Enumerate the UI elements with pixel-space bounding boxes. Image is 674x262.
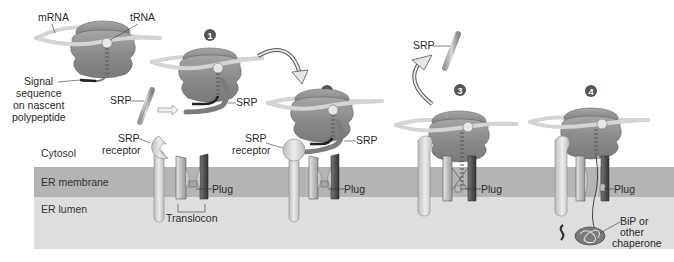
plug-step-4-label: Plug xyxy=(614,183,635,195)
srp-step-2-label: SRP xyxy=(356,134,378,146)
plug-step-2-label: Plug xyxy=(344,183,365,195)
srp-step-3-label: SRP xyxy=(413,39,435,51)
srp-released-icon xyxy=(445,34,458,68)
srp-receptor-label: SRP receptor xyxy=(102,132,141,156)
svg-text:polypeptide: polypeptide xyxy=(12,111,66,123)
srp-step-1-label: SRP xyxy=(236,96,258,108)
srp-free-icon xyxy=(140,90,152,122)
ribosome-initial xyxy=(36,21,160,81)
svg-text:Signal: Signal xyxy=(24,75,53,87)
arrow-srp-binding-icon xyxy=(158,105,178,115)
bip-chaperone-icon xyxy=(575,227,605,245)
step-1-badge: 1 xyxy=(204,29,216,41)
mrna-label: mRNA xyxy=(38,11,69,23)
srp-receptor-step-4-icon xyxy=(555,136,569,216)
er-lumen-label: ER lumen xyxy=(41,203,87,215)
cytosol-label: Cytosol xyxy=(41,147,76,159)
svg-text:SRP: SRP xyxy=(245,132,267,144)
translocon-label: Translocon xyxy=(166,212,218,224)
svg-text:3: 3 xyxy=(457,86,462,96)
srp-receptor-step-3-icon xyxy=(418,136,432,216)
er-membrane-label: ER membrane xyxy=(41,176,109,188)
ribosome-step-4 xyxy=(530,108,648,159)
srp-free-label: SRP xyxy=(110,94,132,106)
svg-text:1: 1 xyxy=(207,31,212,41)
step-3-badge: 3 xyxy=(454,84,466,96)
arrow-srp-release-icon xyxy=(412,55,432,104)
er-targeting-diagram: Cytosol ER membrane ER lumen mRNA tRNA S… xyxy=(0,0,674,262)
plug-icon xyxy=(189,181,197,187)
trna-label: tRNA xyxy=(130,11,155,23)
arrow-step-1-to-2-icon xyxy=(258,50,308,84)
svg-text:sequence: sequence xyxy=(16,87,62,99)
svg-text:SRP: SRP xyxy=(118,132,140,144)
svg-text:on nascent: on nascent xyxy=(13,99,64,111)
svg-text:receptor: receptor xyxy=(232,144,271,156)
svg-text:chaperone: chaperone xyxy=(612,237,662,249)
plug-step-3-label: Plug xyxy=(481,183,502,195)
svg-text:receptor: receptor xyxy=(102,144,141,156)
plug-label: Plug xyxy=(212,183,233,195)
srp-receptor-step-2-label: SRP receptor xyxy=(232,132,271,156)
step-4-badge: 4 xyxy=(585,85,597,97)
signal-sequence-label: Signal sequence on nascent polypeptide xyxy=(12,75,66,123)
svg-text:4: 4 xyxy=(588,87,593,97)
